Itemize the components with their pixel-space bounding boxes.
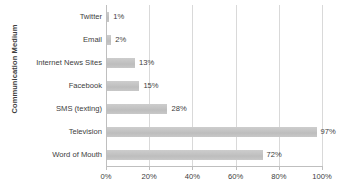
x-axis-tick-label: 0% xyxy=(101,172,112,181)
category-label: Word of Mouth xyxy=(14,150,102,159)
x-axis-line xyxy=(106,166,322,167)
bar xyxy=(107,127,317,137)
x-axis-tick-label: 20% xyxy=(142,172,157,181)
bar-value-label: 2% xyxy=(115,35,126,45)
x-axis-tick xyxy=(236,166,237,170)
gridline xyxy=(192,5,193,166)
x-axis-tick-label: 60% xyxy=(228,172,243,181)
x-axis-tick xyxy=(279,166,280,170)
category-label: Facebook xyxy=(14,81,102,90)
bar-value-label: 13% xyxy=(139,58,154,68)
bar-value-label: 1% xyxy=(113,12,124,22)
bar xyxy=(107,150,263,160)
x-axis-tick-label: 80% xyxy=(271,172,286,181)
bar xyxy=(107,104,167,114)
gridline xyxy=(322,5,323,166)
x-axis-tick xyxy=(192,166,193,170)
x-axis-tick xyxy=(106,166,107,170)
category-label: Internet News Sites xyxy=(14,58,102,67)
bar xyxy=(107,58,135,68)
bar-value-label: 28% xyxy=(171,104,186,114)
gridline xyxy=(236,5,237,166)
bar xyxy=(107,12,109,22)
bar-chart: Communication Medium TwitterEmailInterne… xyxy=(0,0,339,194)
bar xyxy=(107,81,139,91)
x-axis-tick xyxy=(149,166,150,170)
gridline xyxy=(279,5,280,166)
category-label: Twitter xyxy=(14,12,102,21)
bar xyxy=(107,35,111,45)
bar-value-label: 15% xyxy=(143,81,158,91)
bar-value-label: 72% xyxy=(267,150,282,160)
x-axis-tick-labels: 0%20%40%60%80%100% xyxy=(0,172,339,184)
category-label: Email xyxy=(14,35,102,44)
x-axis-tick xyxy=(322,166,323,170)
plot-area: 1%2%13%15%28%97%72% xyxy=(106,5,322,166)
x-axis-tick-label: 40% xyxy=(185,172,200,181)
x-axis-tick-label: 100% xyxy=(312,172,331,181)
category-axis-labels: TwitterEmailInternet News SitesFacebookS… xyxy=(14,5,102,166)
bar-value-label: 97% xyxy=(321,127,336,137)
category-label: SMS (texting) xyxy=(14,104,102,113)
category-label: Television xyxy=(14,127,102,136)
